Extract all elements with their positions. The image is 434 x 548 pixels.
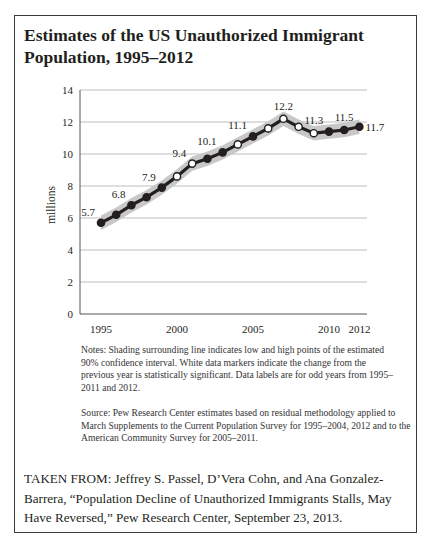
y-axis-ticks: 02468101214 [62,84,74,320]
marker-significant [280,115,287,122]
data-labels: 5.76.87.99.410.111.112.211.311.511.7 [81,100,384,218]
chart-notes: Notes: Shading surrounding line indicate… [81,344,401,394]
marker [113,211,120,218]
x-axis-ticks: 19952000200520102012 [90,323,370,335]
y-tick-label: 10 [62,148,74,160]
y-axis-label: millions [45,186,57,224]
gridlines [80,90,367,282]
data-label: 11.7 [365,121,384,133]
marker [97,219,104,226]
marker [204,155,211,162]
data-label: 9.4 [172,147,186,159]
y-tick-label: 4 [68,244,74,256]
data-label: 7.9 [142,171,156,183]
marker-significant [173,173,180,180]
taken-from-citation: TAKEN FROM: Jeffrey S. Passel, D’Vera Co… [24,469,419,528]
data-label: 11.1 [228,119,247,131]
marker [128,202,135,209]
marker-significant [265,125,272,132]
data-label: 10.1 [197,135,216,147]
x-tick-label: 2010 [318,323,341,335]
y-tick-label: 2 [68,276,74,288]
y-tick-label: 6 [68,212,74,224]
x-tick-label: 1995 [90,323,113,335]
x-tick-label: 2000 [166,323,189,335]
marker [249,133,256,140]
marker [143,194,150,201]
marker-significant [295,123,302,130]
chart-source: Source: Pew Research Center estimates ba… [81,407,411,445]
marker-significant [189,160,196,167]
marker [356,123,363,130]
marker [158,184,165,191]
x-tick-label: 2005 [242,323,265,335]
x-tick-label: 2012 [348,323,370,335]
data-label: 6.8 [112,188,126,200]
y-tick-label: 14 [62,84,74,96]
y-tick-label: 0 [68,308,74,320]
data-label: 12.2 [274,100,293,112]
data-label: 11.5 [335,111,354,123]
y-tick-label: 8 [68,180,74,192]
marker-significant [234,141,241,148]
y-tick-label: 12 [62,116,73,128]
data-label: 5.7 [81,206,95,218]
marker-significant [310,130,317,137]
marker [325,128,332,135]
marker [341,126,348,133]
marker [219,149,226,156]
line-chart: 02468101214 19952000200520102012 million… [0,0,434,548]
data-label: 11.3 [304,114,323,126]
